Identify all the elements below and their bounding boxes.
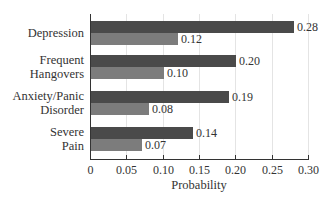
bar-chart: 00.050.100.150.200.250.30ProbabilityDepr… xyxy=(0,0,325,197)
gridline xyxy=(272,14,273,159)
bar-value-label: 0.19 xyxy=(232,91,253,103)
bar-value-label: 0.28 xyxy=(297,21,318,33)
bar-light xyxy=(91,33,178,45)
x-tick-label: 0.30 xyxy=(298,163,319,178)
bar-light xyxy=(91,139,142,151)
x-tick-label: 0.15 xyxy=(189,163,210,178)
category-label: Severe Pain xyxy=(50,125,84,153)
x-axis-label: Probability xyxy=(171,178,227,193)
bar-light xyxy=(91,67,164,79)
bar-value-label: 0.10 xyxy=(167,67,188,79)
bar-dark xyxy=(91,55,236,67)
x-tick-label: 0.05 xyxy=(116,163,137,178)
category-label: Frequent Hangovers xyxy=(30,53,84,81)
x-tick-label: 0 xyxy=(88,163,94,178)
bar-light xyxy=(91,103,149,115)
gridline xyxy=(308,14,309,159)
x-axis-line xyxy=(90,159,309,160)
bar-value-label: 0.07 xyxy=(145,139,166,151)
bar-dark xyxy=(91,127,193,139)
bar-value-label: 0.14 xyxy=(196,127,217,139)
category-label: Anxiety/Panic Disorder xyxy=(12,89,84,117)
x-tick-label: 0.20 xyxy=(225,163,246,178)
bar-value-label: 0.08 xyxy=(152,103,173,115)
bar-value-label: 0.12 xyxy=(181,33,202,45)
category-label: Depression xyxy=(28,26,84,40)
gridline xyxy=(235,14,236,159)
x-tick-label: 0.10 xyxy=(153,163,174,178)
bar-value-label: 0.20 xyxy=(239,55,260,67)
x-tick-label: 0.25 xyxy=(262,163,283,178)
